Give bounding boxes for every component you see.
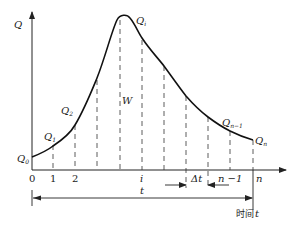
delta-t-label: Δt bbox=[190, 173, 203, 184]
label-qn-1: Qn−1 bbox=[222, 117, 243, 129]
t-span-left-arrowhead bbox=[33, 196, 41, 201]
hydrograph-curve bbox=[32, 15, 253, 157]
y-axis-label: Q bbox=[14, 19, 22, 30]
label-q1: Q1 bbox=[44, 131, 56, 143]
tick-n-1: n −1 bbox=[218, 173, 242, 184]
tick-n: n bbox=[256, 173, 262, 184]
label-q0: Q0 bbox=[17, 153, 29, 165]
t-span-label: t bbox=[140, 185, 145, 196]
tick-i: i bbox=[140, 173, 143, 184]
label-qi: Qi bbox=[136, 15, 146, 27]
area-label-w: W bbox=[122, 95, 133, 106]
dashed-ordinates bbox=[53, 20, 253, 188]
time-axis-label: 时间t bbox=[236, 208, 260, 219]
label-qn: Qn bbox=[255, 135, 267, 147]
label-q2: Q2 bbox=[61, 105, 73, 117]
hydrograph-diagram: Q Q0 Q1 Q2 Qi Qn−1 Qn W 0 1 2 i n −1 n Δ… bbox=[0, 0, 301, 233]
tick-1: 1 bbox=[50, 173, 56, 184]
tick-0: 0 bbox=[29, 173, 35, 184]
tick-2: 2 bbox=[72, 173, 78, 184]
